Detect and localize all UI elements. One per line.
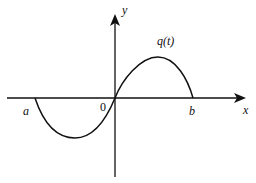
curve-label: q(t) bbox=[157, 34, 174, 48]
origin-label: 0 bbox=[100, 100, 106, 114]
y-axis-label: y bbox=[121, 3, 128, 17]
root-a-label: a bbox=[23, 104, 29, 118]
root-b-label: b bbox=[189, 104, 195, 118]
function-graph: y x 0 q(t) a b bbox=[0, 0, 256, 183]
x-axis-label: x bbox=[242, 103, 249, 117]
